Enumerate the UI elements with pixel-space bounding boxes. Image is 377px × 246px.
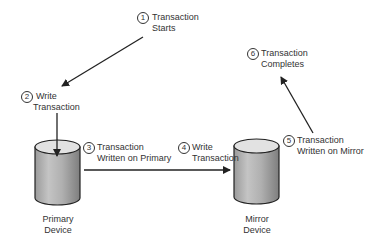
step-6-line1: Transaction	[261, 48, 308, 59]
step-3-line2: Written on Primary	[97, 153, 171, 164]
step-5-number-icon: 5	[283, 135, 295, 147]
step-3-label: Transaction Written on Primary	[97, 142, 171, 164]
step-4-label: Write Transaction	[192, 142, 239, 164]
mirror-device-label: Mirror Device	[232, 214, 282, 236]
step-2-line2: Transaction	[33, 102, 80, 113]
arrow-mirror-to-complete	[281, 77, 313, 133]
mirror-device-line1: Mirror	[232, 214, 282, 225]
mirror-device-cylinder	[234, 139, 279, 204]
step-2-number-icon: 2	[21, 91, 33, 103]
step-5-label: Transaction Written on Mirror	[297, 135, 364, 157]
step-4-number-icon: 4	[178, 142, 190, 154]
step-2-label: Write Transaction	[36, 91, 80, 113]
step-5-line1: Transaction	[297, 135, 364, 146]
step-3-number-icon: 3	[83, 142, 95, 154]
step-5-line2: Written on Mirror	[297, 146, 364, 157]
primary-device-label: Primary Device	[33, 214, 83, 236]
diagram-canvas	[0, 0, 377, 246]
step-1-number-icon: 1	[137, 12, 149, 24]
mirror-device-line2: Device	[232, 225, 282, 236]
primary-device-line2: Device	[33, 225, 83, 236]
primary-device-line1: Primary	[33, 214, 83, 225]
step-1-line1: Transaction	[152, 12, 199, 23]
step-2-line1: Write	[36, 91, 80, 102]
arrow-start-to-write	[62, 37, 143, 86]
step-1-line2: Starts	[152, 23, 199, 34]
step-6-line2: Completes	[261, 59, 308, 70]
step-6-number-icon: 6	[247, 48, 259, 60]
step-6-label: Transaction Completes	[261, 48, 308, 70]
step-3-line1: Transaction	[97, 142, 171, 153]
step-1-label: Transaction Starts	[152, 12, 199, 34]
step-4-line1: Write	[192, 142, 239, 153]
step-4-line2: Transaction	[192, 153, 239, 164]
